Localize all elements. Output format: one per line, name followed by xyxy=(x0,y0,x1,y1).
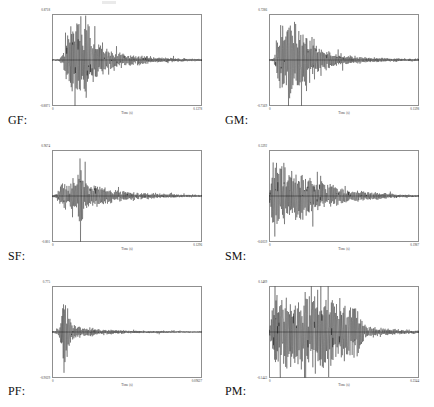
x-axis-min-tick-label: 0 xyxy=(52,380,54,383)
plot-area: 0.5392-0.605900.1987Time (s) xyxy=(269,150,419,242)
waveform-panel-grid: 0.8718-0.887100.1378Time (s)GF:0.7286-0.… xyxy=(0,0,434,407)
plot-area: 0.7286-0.756900.1598Time (s) xyxy=(269,14,419,106)
y-axis-min-tick-label: -0.6059 xyxy=(257,241,268,244)
y-axis-min-tick-label: -0.7569 xyxy=(257,105,268,108)
panel-cell-sf: 0.9674-0.80100.1296Time (s)SF: xyxy=(0,136,217,272)
waveform-trace xyxy=(269,286,419,378)
x-axis-caption: Time (s) xyxy=(338,247,349,251)
panel-cell-pf: 0.775-0.902900.09627Time (s)PF: xyxy=(0,272,217,407)
panel-cell-pm: 0.1489-0.144300.2344Time (s)PM: xyxy=(217,272,434,407)
plot-area: 0.775-0.902900.09627Time (s) xyxy=(52,286,202,378)
waveform-trace xyxy=(52,14,202,106)
x-axis-caption: Time (s) xyxy=(121,383,132,387)
panel-label-gf: GF: xyxy=(8,113,27,128)
x-axis-caption: Time (s) xyxy=(338,383,349,387)
y-axis-min-tick-label: -0.1443 xyxy=(257,377,268,380)
y-axis-max-tick-label: 0.1489 xyxy=(258,281,268,284)
y-axis-min-tick-label: -0.9029 xyxy=(40,377,51,380)
panel-label-sm: SM: xyxy=(225,249,246,264)
x-axis-caption: Time (s) xyxy=(121,111,132,115)
x-axis-min-tick-label: 0 xyxy=(269,380,271,383)
panel-cell-gm: 0.7286-0.756900.1598Time (s)GM: xyxy=(217,0,434,136)
x-axis-max-tick-label: 0.1378 xyxy=(193,108,202,111)
y-axis-max-tick-label: 0.7286 xyxy=(258,9,268,12)
panel-cell-gf: 0.8718-0.887100.1378Time (s)GF: xyxy=(0,0,217,136)
x-axis-min-tick-label: 0 xyxy=(269,244,271,247)
x-axis-max-tick-label: 0.09627 xyxy=(192,380,202,383)
panel-cell-sm: 0.5392-0.605900.1987Time (s)SM: xyxy=(217,136,434,272)
top-edge-artifact xyxy=(102,1,116,4)
x-axis-min-tick-label: 0 xyxy=(269,108,271,111)
x-axis-max-tick-label: 0.1598 xyxy=(410,108,419,111)
plot-area: 0.8718-0.887100.1378Time (s) xyxy=(52,14,202,106)
plot-area: 0.9674-0.80100.1296Time (s) xyxy=(52,150,202,242)
y-axis-max-tick-label: 0.775 xyxy=(43,281,51,284)
waveform-trace xyxy=(269,150,419,242)
x-axis-max-tick-label: 0.1987 xyxy=(410,244,419,247)
x-axis-max-tick-label: 0.1296 xyxy=(193,244,202,247)
y-axis-min-tick-label: -0.801 xyxy=(42,241,51,244)
x-axis-min-tick-label: 0 xyxy=(52,244,54,247)
x-axis-caption: Time (s) xyxy=(338,111,349,115)
x-axis-max-tick-label: 0.2344 xyxy=(410,380,419,383)
panel-label-pm: PM: xyxy=(225,384,246,399)
panel-label-pf: PF: xyxy=(8,384,25,399)
x-axis-caption: Time (s) xyxy=(121,247,132,251)
y-axis-min-tick-label: -0.8871 xyxy=(40,105,51,108)
y-axis-max-tick-label: 0.5392 xyxy=(258,145,268,148)
panel-label-gm: GM: xyxy=(225,113,248,128)
y-axis-max-tick-label: 0.9674 xyxy=(41,145,51,148)
waveform-trace xyxy=(52,286,202,378)
waveform-trace xyxy=(52,150,202,242)
waveform-trace xyxy=(269,14,419,106)
y-axis-max-tick-label: 0.8718 xyxy=(41,9,51,12)
plot-area: 0.1489-0.144300.2344Time (s) xyxy=(269,286,419,378)
x-axis-min-tick-label: 0 xyxy=(52,108,54,111)
panel-label-sf: SF: xyxy=(8,249,25,264)
